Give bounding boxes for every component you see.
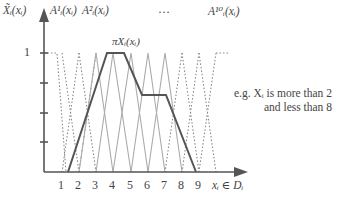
label-A1: A¹ᵢ(xᵢ) (50, 4, 77, 16)
label-A10: A¹⁰ᵢ(xᵢ) (208, 4, 240, 18)
x-tick-3: 3 (92, 178, 98, 193)
ellipsis: … (158, 2, 170, 17)
label-A2: A²ᵢ(xᵢ) (82, 4, 109, 16)
x-tick-1: 1 (58, 178, 64, 193)
x-tick-2: 2 (75, 178, 81, 193)
example-note: e.g. Xᵢ is more than 2 and less than 8 (234, 86, 332, 114)
dotted-membership-functions (44, 53, 230, 172)
y-tick-one: 1 (24, 45, 30, 60)
x-tick-6: 6 (144, 178, 150, 193)
note-line-1: e.g. Xᵢ is more than 2 (234, 86, 332, 100)
pi-distribution-curve (68, 53, 196, 172)
x-axis-label: xᵢ ∈ Dᵢ (212, 178, 243, 192)
pi-label: πXᵢ(xᵢ) (112, 35, 140, 47)
note-line-2: and less than 8 (234, 100, 332, 114)
x-tick-9: 9 (195, 178, 201, 193)
y-axis-label: X̃ᵢ(xᵢ) (3, 4, 26, 16)
x-tick-5: 5 (127, 178, 133, 193)
x-tick-8: 8 (178, 178, 184, 193)
x-tick-4: 4 (109, 178, 115, 193)
solid-membership-functions (79, 53, 182, 172)
x-tick-7: 7 (161, 178, 167, 193)
axes (39, 8, 248, 177)
